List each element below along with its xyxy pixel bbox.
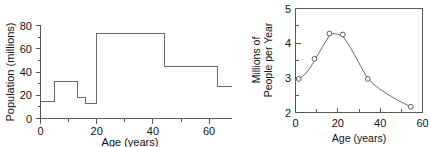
data-point: [365, 77, 370, 82]
left-x-ticklabel-60: 60: [203, 125, 215, 137]
data-point: [312, 56, 317, 61]
right-x-ticklabel-0: 0: [292, 117, 298, 129]
left-y-ticklabels: 0 20 40 60 80: [20, 20, 32, 125]
right-y-ticklabels: 2 3 4 5: [285, 3, 291, 119]
data-point: [327, 31, 332, 36]
data-point: [296, 77, 301, 82]
left-y-axis-label: Population (millions): [4, 22, 16, 121]
right-y-ticklabel-4: 4: [285, 37, 291, 49]
right-data-markers: [296, 31, 413, 109]
right-y-ticklabel-3: 3: [285, 72, 291, 84]
left-y-ticklabel-0: 0: [26, 113, 32, 125]
data-point: [340, 32, 345, 37]
chart-right-people-per-year: 2 3 4 5 0 20 40 60 Millions of People pe…: [240, 0, 429, 147]
left-y-ticks: [36, 26, 41, 119]
left-y-ticklabel-20: 20: [20, 89, 32, 101]
right-y-ticks: [296, 9, 301, 113]
right-y-ticklabel-5: 5: [285, 3, 291, 15]
left-step-series: [41, 34, 232, 104]
left-y-ticklabel-60: 60: [20, 43, 32, 55]
right-x-ticks: [296, 108, 423, 113]
figure-canvas: 0 20 40 60 80 0 20 40 60 Population (mil…: [0, 0, 429, 147]
right-x-ticklabels: 0 20 40 60: [292, 117, 428, 129]
left-x-ticklabel-0: 0: [37, 125, 43, 137]
chart-left-population-by-age: 0 20 40 60 80 0 20 40 60 Population (mil…: [0, 0, 240, 147]
right-x-ticklabel-40: 40: [374, 117, 386, 129]
right-x-axis-label: Age (years): [332, 132, 386, 144]
right-y-axis-label-line1: Millions of: [250, 37, 262, 84]
right-x-ticklabel-60: 60: [416, 117, 428, 129]
right-y-axis-label-line2: People per Year: [262, 22, 274, 97]
right-x-ticklabel-20: 20: [332, 117, 344, 129]
right-chart-svg: 2 3 4 5 0 20 40 60 Millions of People pe…: [240, 0, 429, 147]
left-x-ticks: [41, 119, 210, 124]
left-y-ticklabel-40: 40: [20, 66, 32, 78]
data-point: [408, 104, 413, 109]
right-data-curve: [299, 34, 411, 107]
left-chart-svg: 0 20 40 60 80 0 20 40 60 Population (mil…: [0, 0, 240, 147]
left-y-ticklabel-80: 80: [20, 20, 32, 32]
right-y-ticklabel-2: 2: [285, 107, 291, 119]
left-x-axis-label: Age (years): [102, 136, 159, 147]
